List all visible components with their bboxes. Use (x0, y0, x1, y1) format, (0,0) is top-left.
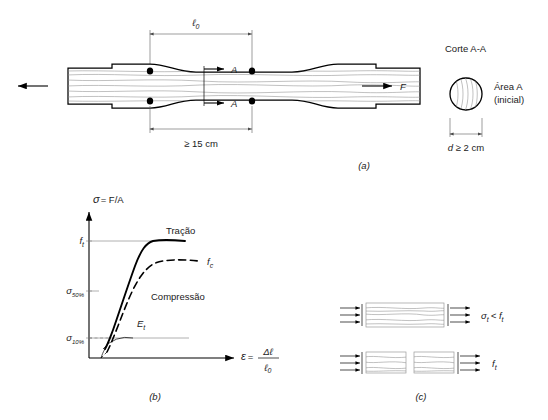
panel-c: σt< ft (340, 303, 505, 402)
area-label: Área A (494, 81, 523, 92)
gauge-length-dimension: ℓ0 (150, 17, 252, 70)
min-length-dimension: ≥ 15 cm (150, 106, 252, 149)
gauge-marker (249, 67, 255, 74)
panel-c-caption: (c) (415, 391, 426, 402)
gauge-length-label: ℓ0 (192, 17, 200, 30)
tension-curve-label: Tração (166, 225, 195, 236)
strain-numerator: Δℓ (262, 346, 273, 357)
y-axis-label: σ= F/A (93, 193, 124, 205)
technical-figure: ℓ0 A A (0, 0, 548, 420)
gauge-marker (147, 97, 153, 104)
failure-row-fractured: ft (340, 352, 498, 374)
svg-text:ε=: ε= (241, 350, 254, 362)
diameter-label: d ≥ 2 cm (448, 142, 484, 153)
figure-canvas: ℓ0 A A (0, 0, 548, 420)
min-length-label: ≥ 15 cm (184, 138, 218, 149)
cross-section-detail: Corte A-A Área A (inicial) d ≥ 2 cm (445, 43, 524, 153)
area-sub-label: (inicial) (494, 94, 524, 105)
tick-label-sigma10: σ10% (66, 332, 84, 345)
tension-curve-tail (101, 349, 105, 358)
diameter-dimension: d ≥ 2 cm (448, 118, 484, 153)
panel-b: σ= F/A ft σ50% σ10% (66, 193, 279, 402)
strain-denominator: ℓ0 (264, 362, 272, 374)
x-axis-label: ε= Δℓ ℓ0 (241, 346, 279, 374)
section-label-top: A (230, 64, 237, 75)
failure-row-intact: σt< ft (340, 303, 505, 327)
panel-a: ℓ0 A A (18, 17, 524, 171)
label-sigma-t-less-ft: σt< ft (481, 310, 505, 323)
tick-label-ft: ft (79, 235, 85, 248)
load-arrows-left-2 (340, 352, 362, 374)
gauge-marker (249, 97, 255, 104)
gauge-marker (147, 67, 153, 74)
panel-b-caption: (b) (149, 391, 161, 402)
modulus-label: Et (137, 318, 146, 331)
panel-a-caption: (a) (358, 160, 370, 171)
load-arrows-left-1 (340, 304, 362, 326)
label-ft-fracture: ft (492, 358, 498, 371)
tick-label-sigma50: σ50% (66, 285, 84, 298)
compression-curve-label: Compressão (151, 291, 205, 302)
section-label-bottom: A (230, 98, 237, 109)
load-arrows-right-1 (448, 304, 470, 326)
section-title: Corte A-A (445, 43, 487, 54)
fc-curve-label: fc (207, 256, 214, 269)
load-arrows-right-2 (458, 352, 480, 374)
